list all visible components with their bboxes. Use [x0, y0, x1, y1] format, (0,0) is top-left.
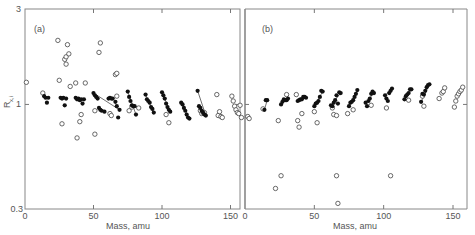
open-marker — [56, 38, 60, 42]
open-marker — [60, 122, 64, 126]
open-marker — [231, 99, 235, 103]
open-marker — [167, 121, 171, 125]
filled-marker — [339, 91, 343, 95]
open-marker — [73, 81, 77, 85]
open-marker — [93, 109, 97, 113]
filled-marker — [96, 96, 100, 100]
xtick-label-a-0: 0 — [22, 211, 27, 221]
xtick-label-b-100: 100 — [376, 211, 391, 221]
open-marker — [334, 174, 338, 178]
filled-marker — [196, 89, 200, 93]
filled-marker — [318, 95, 322, 99]
filled-marker — [409, 87, 413, 91]
open-marker — [384, 106, 388, 110]
x-axis-a: 0 50 100 150 Mass, amu — [22, 211, 238, 231]
filled-marker — [116, 115, 120, 119]
open-marker — [406, 98, 410, 102]
open-marker — [294, 92, 298, 96]
xtick-label-b-150: 150 — [445, 211, 460, 221]
open-marker — [83, 81, 87, 85]
filled-marker — [148, 101, 152, 105]
filled-marker — [134, 112, 138, 116]
open-marker — [164, 112, 168, 116]
filled-marker — [368, 96, 372, 100]
filled-marker — [80, 101, 84, 105]
open-marker — [237, 111, 241, 115]
open-marker — [115, 71, 119, 75]
open-marker — [64, 62, 68, 66]
filled-marker — [423, 89, 427, 93]
filled-marker — [152, 111, 156, 115]
filled-marker — [304, 96, 308, 100]
filled-marker — [45, 101, 49, 105]
xtick-label-b-0: 0 — [242, 211, 247, 221]
filled-marker — [113, 100, 117, 104]
filled-marker — [419, 100, 423, 104]
filled-marker — [111, 96, 115, 100]
filled-marker — [183, 109, 187, 113]
filled-marker — [82, 97, 86, 101]
open-marker — [442, 86, 446, 90]
open-marker — [422, 104, 426, 108]
filled-marker — [262, 108, 266, 112]
panel-b-ticks — [245, 9, 467, 209]
y-axis-title: R x,i — [2, 96, 14, 108]
open-marker — [295, 118, 299, 122]
open-marker — [97, 50, 101, 54]
open-marker — [57, 78, 61, 82]
open-marker — [437, 96, 441, 100]
open-marker — [78, 119, 82, 123]
filled-marker — [150, 107, 154, 111]
filled-marker — [336, 101, 340, 105]
open-marker — [452, 105, 456, 109]
filled-marker — [117, 108, 121, 112]
open-marker — [68, 84, 72, 88]
xtick-label-b-50: 50 — [309, 211, 319, 221]
y-axis-title-subscript: x,i — [8, 96, 14, 102]
filled-marker — [265, 98, 269, 102]
open-marker — [215, 92, 219, 96]
open-marker — [79, 112, 83, 116]
filled-marker — [204, 113, 208, 117]
ytick-label-3: 3 — [16, 4, 21, 14]
filled-marker — [126, 89, 130, 93]
open-marker — [230, 94, 234, 98]
chart-figure: 3 1 0.3 R x,i 0 50 100 150 Mass, amu 0 5… — [0, 0, 475, 235]
open-marker — [109, 113, 113, 117]
open-marker — [220, 115, 224, 119]
open-marker — [67, 52, 71, 56]
open-marker — [24, 80, 28, 84]
panel-a-open-markers — [24, 38, 243, 140]
filled-marker — [128, 99, 132, 103]
xtick-label-a-100: 100 — [154, 211, 169, 221]
open-marker — [279, 174, 283, 178]
filled-marker — [64, 96, 68, 100]
open-marker — [454, 99, 458, 103]
filled-marker — [168, 110, 172, 114]
open-marker — [336, 201, 340, 205]
filled-marker — [127, 95, 131, 99]
y-axis-a: 3 1 0.3 R x,i — [2, 4, 23, 214]
panel-a-filled-markers — [42, 89, 208, 121]
filled-marker — [372, 91, 376, 95]
x-axis-title-b: Mass, amu — [333, 221, 377, 231]
open-marker — [217, 109, 221, 113]
filled-marker — [355, 88, 359, 92]
ytick-label-1: 1 — [16, 99, 21, 109]
open-marker — [247, 116, 251, 120]
open-marker — [75, 136, 79, 140]
open-marker — [369, 103, 373, 107]
filled-marker — [427, 82, 431, 86]
open-marker — [65, 42, 69, 46]
open-marker — [300, 111, 304, 115]
open-marker — [276, 118, 280, 122]
x-axis-title-a: Mass, amu — [106, 221, 150, 231]
open-marker — [98, 41, 102, 45]
filled-marker — [63, 103, 67, 107]
panel-b-frame — [245, 9, 467, 209]
open-marker — [315, 121, 319, 125]
panel-label-b: (b) — [262, 24, 273, 34]
filled-marker — [365, 104, 369, 108]
open-marker — [461, 85, 465, 89]
filled-marker — [102, 110, 106, 114]
